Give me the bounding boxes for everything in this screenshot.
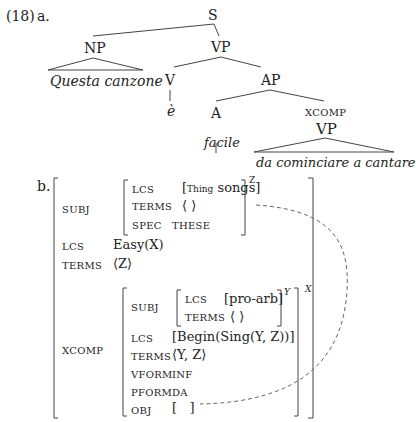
avm-subj-index: Z xyxy=(249,174,256,186)
avm-xcomp-subj-terms-value: ⟨ ⟩ xyxy=(230,310,244,324)
avm-attr-lcs: LCS xyxy=(62,241,84,253)
tree-node-xcomp-vp: VP xyxy=(316,122,337,136)
outer-bracket-right xyxy=(308,178,313,418)
avm-xcomp-obj-value: [ ] xyxy=(172,401,195,415)
avm-subj-lcs-attr: LCS xyxy=(132,184,154,196)
avm-xcomp-subj-index: Y xyxy=(284,286,290,298)
avm-subj-spec-value: THESE xyxy=(172,220,210,232)
edge-vp-ap xyxy=(221,57,261,67)
part-b-label: b. xyxy=(37,179,50,193)
edge-ap-a xyxy=(216,90,270,101)
avm-attr-subj: SUBJ xyxy=(62,204,90,216)
avm-attr-terms: TERMS xyxy=(62,260,102,272)
avm-xcomp-lcs-attr: LCS xyxy=(131,333,153,345)
avm-xcomp-subj-lcs-value: [pro-arb] xyxy=(224,292,283,306)
avm-subj-spec-attr: SPEC xyxy=(132,220,162,232)
tree-xcomp-label: XCOMP xyxy=(305,107,346,119)
avm-subj-terms-attr: TERMS xyxy=(132,201,172,213)
avm-terms-value: ⟨Z⟩ xyxy=(113,257,132,271)
avm-xcomp-vform-attr: VFORM xyxy=(131,369,173,381)
np-triangle-right xyxy=(93,58,143,70)
tree-leaf-a: facile xyxy=(204,136,240,150)
xcomp-subj-bracket-left xyxy=(177,290,181,326)
avm-xcomp-terms-value: ⟨Y, Z⟩ xyxy=(172,348,206,362)
edge-vp-v xyxy=(174,57,221,67)
xcomp-bracket-right xyxy=(294,288,298,416)
avm-xcomp-subj-terms-attr: TERMS xyxy=(185,312,225,324)
tree-node-s: S xyxy=(208,8,218,22)
avm-xcomp-vform-value: INF xyxy=(172,369,193,381)
avm-xcomp-pform-value: DA xyxy=(172,387,188,399)
tree-node-np: NP xyxy=(84,41,106,55)
avm-xcomp-subj-lcs-attr: LCS xyxy=(185,294,207,306)
avm-lcs-value: Easy(X) xyxy=(113,238,164,252)
edge-s-np xyxy=(93,24,214,36)
np-triangle-left xyxy=(48,58,93,70)
edge-ap-xcomp xyxy=(270,90,324,101)
avm-xcomp-terms-attr: TERMS xyxy=(131,351,171,363)
edge-s-vp xyxy=(214,24,219,36)
avm-xcomp-pform-attr: PFORM xyxy=(131,387,172,399)
avm-xcomp-subj-attr: SUBJ xyxy=(131,302,159,314)
tree-node-a: A xyxy=(211,106,221,120)
tree-node-ap: AP xyxy=(261,73,281,87)
subj-bracket-left xyxy=(124,180,128,235)
avm-subj-terms-value: ⟨ ⟩ xyxy=(182,199,196,213)
avm-xcomp-obj-attr: OBJ xyxy=(131,405,151,417)
example-number: (18) xyxy=(6,9,35,23)
tree-leaf-np: Questa canzone xyxy=(50,74,163,88)
tree-node-vp: VP xyxy=(211,40,231,54)
xcomp-triangle-left xyxy=(254,138,325,152)
avm-attr-xcomp: XCOMP xyxy=(62,345,103,357)
part-a-label: a. xyxy=(37,9,50,23)
xcomp-triangle-right xyxy=(325,138,394,152)
tree-leaf-v: è xyxy=(167,104,175,118)
tree-leaf-xcomp: da cominciare a cantare xyxy=(256,156,416,170)
avm-xcomp-index: X xyxy=(305,283,312,295)
avm-xcomp-lcs-value: [Begin(Sing(Y, Z))] xyxy=(172,330,295,344)
xcomp-bracket-left xyxy=(123,288,127,416)
outer-bracket-left xyxy=(54,178,58,418)
tree-node-v: V xyxy=(165,73,175,87)
